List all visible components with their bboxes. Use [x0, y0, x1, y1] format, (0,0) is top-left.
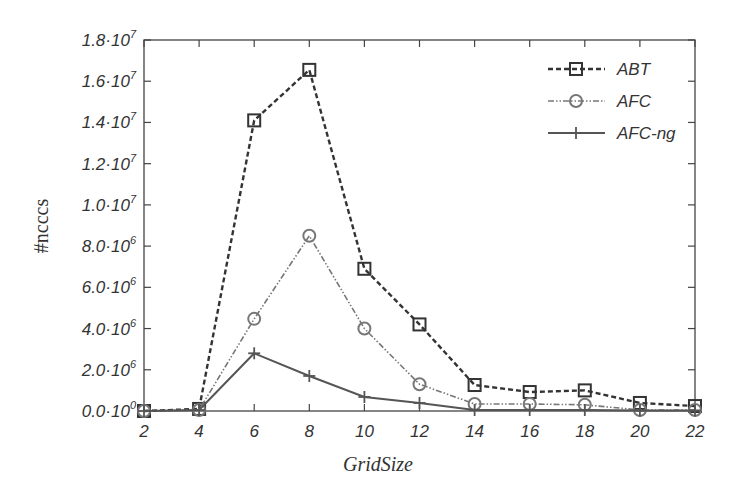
y-tick-label: 0.0·100 — [82, 399, 137, 421]
y-tick-label: 1.6·107 — [82, 69, 137, 91]
data-series — [138, 64, 701, 417]
y-tick-label: 1.2·107 — [82, 152, 137, 174]
x-tick-label: 14 — [465, 422, 484, 441]
legend-label: ABT — [616, 60, 652, 79]
y-tick-label: 2.0·106 — [81, 358, 137, 380]
y-tick-label: 1.0·107 — [82, 193, 137, 215]
line-chart: 0.0·1002.0·1064.0·1066.0·1068.0·1061.0·1… — [0, 0, 736, 496]
plot-frame — [144, 40, 695, 411]
y-axis-ticks: 0.0·1002.0·1064.0·1066.0·1068.0·1061.0·1… — [81, 28, 695, 421]
y-axis-title: #ncccs — [30, 199, 52, 254]
series-afc-ng — [138, 347, 701, 417]
y-tick-label: 4.0·106 — [82, 317, 137, 339]
legend-item-abt: ABT — [548, 60, 652, 79]
legend-item-afc: AFC — [548, 92, 652, 111]
legend-label: AFC — [616, 92, 652, 111]
legend: ABTAFCAFC-ng — [548, 60, 676, 143]
legend-item-afc-ng: AFC-ng — [548, 124, 676, 143]
x-tick-label: 20 — [629, 422, 649, 441]
x-tick-label: 22 — [685, 422, 705, 441]
y-tick-label: 1.8·107 — [82, 28, 137, 50]
x-tick-label: 18 — [575, 422, 594, 441]
x-tick-label: 12 — [410, 422, 429, 441]
x-tick-label: 6 — [249, 422, 259, 441]
x-tick-label: 8 — [305, 422, 315, 441]
y-tick-label: 1.4·107 — [82, 110, 137, 132]
legend-label: AFC-ng — [616, 124, 676, 143]
x-tick-label: 16 — [520, 422, 539, 441]
x-tick-label: 4 — [194, 422, 203, 441]
x-tick-label: 2 — [138, 422, 149, 441]
y-tick-label: 6.0·106 — [82, 275, 137, 297]
series-abt — [138, 64, 701, 417]
y-tick-label: 8.0·106 — [82, 234, 137, 256]
x-axis-title: GridSize — [343, 453, 413, 475]
x-tick-label: 10 — [355, 422, 374, 441]
